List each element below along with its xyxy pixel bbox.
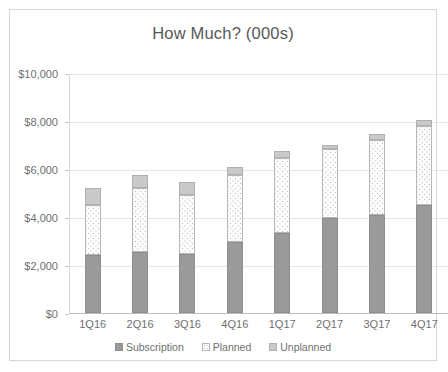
value-axis-tick-mark bbox=[65, 266, 69, 267]
gridline bbox=[69, 74, 448, 75]
bar-segment-planned[interactable] bbox=[322, 149, 338, 219]
gridline bbox=[69, 266, 448, 267]
bar-segment-subscription[interactable] bbox=[179, 254, 195, 313]
bar-column[interactable] bbox=[85, 188, 101, 313]
value-axis-tick-label: $2,000 bbox=[6, 260, 58, 272]
bar-segment-subscription[interactable] bbox=[274, 233, 290, 313]
legend-item-label: Unplanned bbox=[280, 341, 331, 353]
legend-item[interactable]: Subscription bbox=[115, 341, 184, 353]
value-axis-tick-mark bbox=[65, 314, 69, 315]
value-axis-tick-label: $6,000 bbox=[6, 164, 58, 176]
bar-column[interactable] bbox=[416, 120, 432, 313]
bar-segment-unplanned[interactable] bbox=[132, 175, 148, 188]
legend-subscription-swatch-icon bbox=[115, 343, 123, 351]
value-axis-tick-label: $0 bbox=[6, 308, 58, 320]
category-axis-tick-label: 4Q16 bbox=[211, 318, 259, 330]
bar-segment-planned[interactable] bbox=[179, 195, 195, 254]
value-axis-tick-mark bbox=[65, 122, 69, 123]
chart-title: How Much? (000s) bbox=[10, 24, 436, 43]
value-axis-tick-mark bbox=[65, 74, 69, 75]
value-axis-tick-mark bbox=[65, 170, 69, 171]
bar-segment-subscription[interactable] bbox=[416, 205, 432, 313]
bar-column[interactable] bbox=[369, 134, 385, 313]
bar-column[interactable] bbox=[322, 145, 338, 313]
bar-segment-subscription[interactable] bbox=[369, 215, 385, 313]
bar-column[interactable] bbox=[274, 151, 290, 313]
bar-segment-subscription[interactable] bbox=[132, 252, 148, 313]
bar-segment-subscription[interactable] bbox=[85, 255, 101, 313]
category-axis-tick-label: 2Q17 bbox=[306, 318, 354, 330]
bar-segment-planned[interactable] bbox=[416, 126, 432, 205]
value-axis-tick-label: $4,000 bbox=[6, 212, 58, 224]
gridline bbox=[69, 170, 448, 171]
category-axis-tick-label: 1Q17 bbox=[258, 318, 306, 330]
gridline bbox=[69, 122, 448, 123]
category-axis-tick-label: 1Q16 bbox=[69, 318, 117, 330]
category-axis-tick-label: 2Q16 bbox=[116, 318, 164, 330]
bar-segment-unplanned[interactable] bbox=[179, 182, 195, 195]
value-axis-tick-mark bbox=[65, 218, 69, 219]
value-axis-line bbox=[69, 74, 70, 314]
legend-planned-swatch-icon bbox=[202, 343, 210, 351]
bar-segment-unplanned[interactable] bbox=[274, 151, 290, 158]
category-axis-line bbox=[69, 313, 448, 314]
bar-segment-unplanned[interactable] bbox=[85, 188, 101, 205]
category-axis-tick-label: 4Q17 bbox=[400, 318, 448, 330]
legend-item[interactable]: Unplanned bbox=[269, 341, 331, 353]
legend-item-label: Subscription bbox=[126, 341, 184, 353]
gridline bbox=[69, 218, 448, 219]
legend-item-label: Planned bbox=[213, 341, 252, 353]
bar-segment-planned[interactable] bbox=[227, 175, 243, 242]
category-axis-tick-label: 3Q16 bbox=[163, 318, 211, 330]
plot-area bbox=[69, 74, 448, 314]
value-axis-tick-label: $8,000 bbox=[6, 116, 58, 128]
legend-unplanned-swatch-icon bbox=[269, 343, 277, 351]
bar-segment-planned[interactable] bbox=[274, 158, 290, 232]
chart-container: How Much? (000s) $0$2,000$4,000$6,000$8,… bbox=[9, 9, 437, 361]
bar-column[interactable] bbox=[132, 175, 148, 313]
category-axis-tick-label: 3Q17 bbox=[353, 318, 401, 330]
bar-segment-planned[interactable] bbox=[132, 188, 148, 252]
legend-item[interactable]: Planned bbox=[202, 341, 252, 353]
bar-segment-subscription[interactable] bbox=[322, 218, 338, 313]
bar-column[interactable] bbox=[227, 167, 243, 313]
bar-segment-unplanned[interactable] bbox=[227, 167, 243, 175]
chart-legend: SubscriptionPlannedUnplanned bbox=[10, 341, 436, 353]
value-axis-labels: $0$2,000$4,000$6,000$8,000$10,000 bbox=[10, 10, 62, 362]
bar-segment-planned[interactable] bbox=[85, 205, 101, 255]
bar-segment-subscription[interactable] bbox=[227, 242, 243, 313]
bar-segment-planned[interactable] bbox=[369, 140, 385, 214]
value-axis-tick-label: $10,000 bbox=[6, 68, 58, 80]
bar-column[interactable] bbox=[179, 182, 195, 313]
